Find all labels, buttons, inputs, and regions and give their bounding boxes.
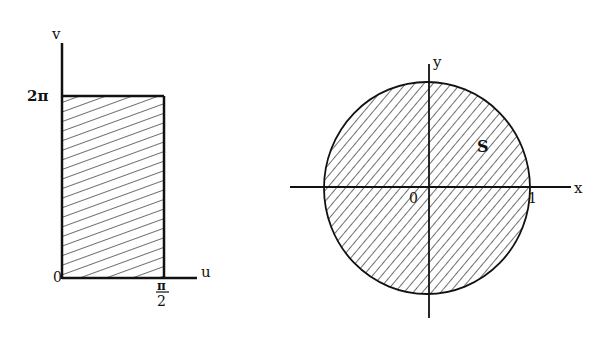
uv-plane-diagram: v u 0 2π π 2 <box>27 25 211 309</box>
pi-over-two-denominator: 2 <box>157 293 166 309</box>
diagram-canvas: v u 0 2π π 2 y x 0 1 S <box>0 0 604 342</box>
v-axis-label: v <box>51 25 61 43</box>
pi-over-two-numerator: π <box>157 279 166 293</box>
origin-label: 0 <box>53 269 62 285</box>
x-tick-one-label: 1 <box>528 190 537 206</box>
two-pi-tick-label: 2π <box>27 87 48 105</box>
hatched-disk-fill <box>320 80 535 298</box>
region-s-label: S <box>477 137 489 156</box>
xy-plane-diagram: y x 0 1 S <box>290 53 583 318</box>
x-axis-label: x <box>574 179 583 197</box>
y-axis-label: y <box>432 53 442 71</box>
u-axis-label: u <box>201 263 211 281</box>
hatched-rectangle-region <box>62 96 164 278</box>
origin-label: 0 <box>409 190 418 206</box>
